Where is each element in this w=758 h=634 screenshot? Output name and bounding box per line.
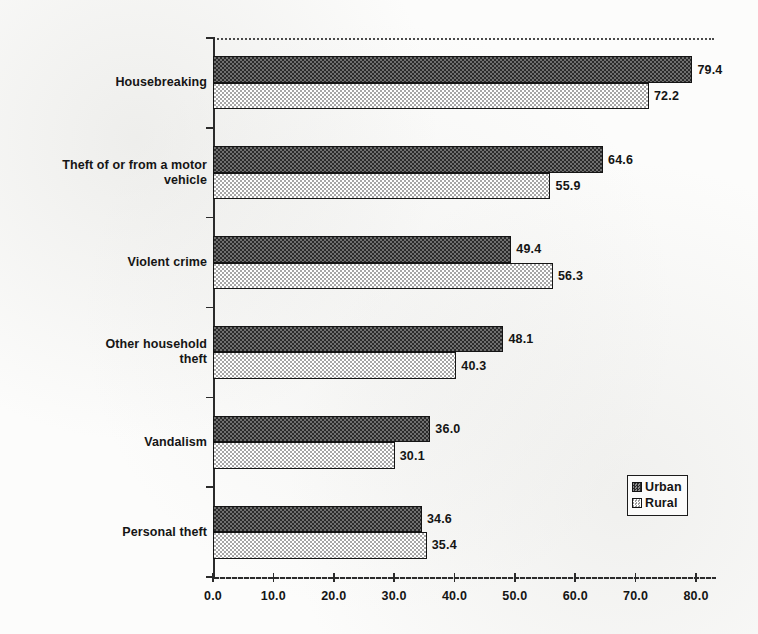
x-axis-tick	[454, 573, 456, 582]
x-axis-tick-label: 0.0	[204, 589, 222, 603]
bar-value-label: 49.4	[516, 242, 541, 256]
category-label-line: Theft of or from a motor	[9, 158, 207, 173]
x-axis-tick-label: 30.0	[382, 589, 407, 603]
bar-value-label: 56.3	[558, 269, 583, 283]
bar-rural	[213, 352, 456, 379]
y-axis-tick	[206, 576, 215, 578]
category-label-line: Personal theft	[9, 525, 207, 540]
legend-item-rural: Rural	[632, 495, 682, 511]
x-axis-tick-label: 40.0	[442, 589, 467, 603]
category-label-line: Other household	[9, 337, 207, 352]
x-axis-tick-label: 80.0	[683, 589, 708, 603]
rural-swatch-icon	[632, 498, 642, 508]
y-axis-category-label: Other householdtheft	[9, 337, 213, 367]
bar-value-label: 40.3	[461, 359, 486, 373]
bar-rural	[213, 263, 553, 290]
category-label-line: theft	[9, 352, 207, 367]
y-axis-tick	[206, 127, 215, 129]
bar-value-label: 79.4	[697, 63, 722, 77]
bar-value-label: 64.6	[608, 153, 633, 167]
bar-urban	[213, 236, 511, 263]
x-axis-tick	[574, 573, 576, 582]
chart-legend: Urban Rural	[627, 475, 688, 516]
bar-rural	[213, 83, 649, 110]
x-axis-tick	[333, 573, 335, 582]
x-axis-tick-label: 20.0	[321, 589, 346, 603]
x-axis-tick	[393, 573, 395, 582]
y-axis-tick	[206, 37, 215, 39]
bar-value-label: 35.4	[432, 538, 457, 552]
x-axis-tick-label: 60.0	[563, 589, 588, 603]
y-axis-tick	[206, 307, 215, 309]
y-axis-tick	[206, 486, 215, 488]
bar-rural	[213, 532, 427, 559]
x-axis-tick-label: 10.0	[261, 589, 286, 603]
chart-page: HousebreakingTheft of or from a motorveh…	[0, 0, 758, 634]
bar-value-label: 36.0	[435, 422, 460, 436]
y-axis-category-label: Vandalism	[9, 435, 213, 450]
bar-rural	[213, 173, 550, 200]
bar-value-label: 55.9	[555, 179, 580, 193]
legend-label-rural: Rural	[645, 496, 677, 510]
category-label-line: Housebreaking	[9, 75, 207, 90]
plot-right-border	[712, 38, 714, 577]
bar-value-label: 30.1	[400, 449, 425, 463]
category-label-line: Violent crime	[9, 255, 207, 270]
plot-top-border	[213, 38, 714, 40]
x-axis-tick	[635, 573, 637, 582]
x-axis-tick-label: 70.0	[623, 589, 648, 603]
x-axis-tick	[273, 573, 275, 582]
y-axis-category-labels: HousebreakingTheft of or from a motorveh…	[0, 0, 213, 634]
bar-value-label: 72.2	[654, 89, 679, 103]
category-label-line: Vandalism	[9, 435, 207, 450]
bar-value-label: 48.1	[508, 332, 533, 346]
x-axis-tick	[514, 573, 516, 582]
y-axis-category-label: Housebreaking	[9, 75, 213, 90]
y-axis-category-label: Violent crime	[9, 255, 213, 270]
y-axis-category-label: Personal theft	[9, 525, 213, 540]
category-label-line: vehicle	[9, 173, 207, 188]
y-axis-category-label: Theft of or from a motorvehicle	[9, 158, 213, 188]
y-axis-tick	[206, 217, 215, 219]
x-axis-tick	[695, 573, 697, 582]
legend-label-urban: Urban	[645, 480, 682, 494]
bar-urban	[213, 506, 422, 533]
bar-urban	[213, 146, 603, 173]
bar-urban	[213, 56, 692, 83]
x-axis-line-dash-overlay	[214, 577, 715, 579]
legend-item-urban: Urban	[632, 479, 682, 495]
bar-urban	[213, 326, 503, 353]
y-axis-tick	[206, 397, 215, 399]
x-axis-tick-label: 50.0	[502, 589, 527, 603]
urban-swatch-icon	[632, 482, 642, 492]
bar-value-label: 34.6	[427, 512, 452, 526]
bar-rural	[213, 442, 395, 469]
bar-urban	[213, 416, 430, 443]
